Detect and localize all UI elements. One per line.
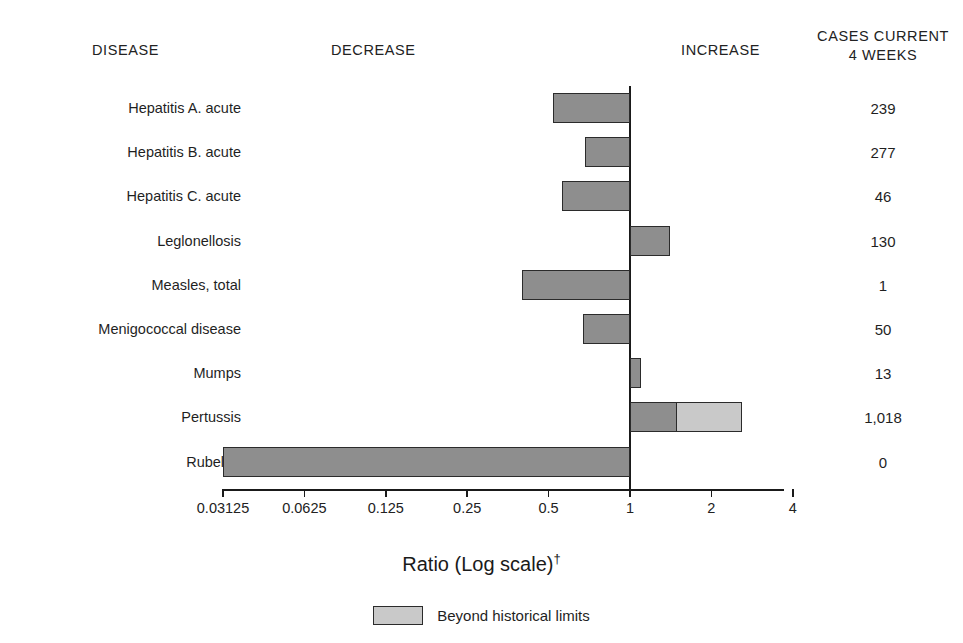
- bar-increase: [630, 226, 670, 256]
- row-label-hepatitis-c-acute: Hepatitis C. acute: [127, 188, 241, 204]
- x-axis-tick-0.0625: [304, 489, 306, 497]
- row-case-count: 0: [808, 453, 958, 470]
- x-axis-tick-label-0.03125: 0.03125: [197, 500, 249, 516]
- row-case-count: 239: [808, 100, 958, 117]
- x-axis-tick-label-0.25: 0.25: [453, 500, 481, 516]
- row-case-count: 1,018: [808, 409, 958, 426]
- plot-area: 0.031250.06250.1250.250.5124 Hepatitis A…: [0, 0, 963, 643]
- bar-decrease: [223, 447, 630, 477]
- bar-decrease: [562, 181, 630, 211]
- legend-swatch-beyond-historical-limits: [373, 606, 423, 625]
- bar-increase: [630, 402, 678, 432]
- legend: Beyond historical limits: [0, 606, 963, 625]
- x-axis-tick-2: [711, 489, 713, 497]
- row-label-pertussis: Pertussis: [181, 409, 241, 425]
- bar-increase: [630, 358, 641, 388]
- chart-row: Measles, total1: [0, 263, 963, 307]
- row-label-measles-total: Measles, total: [152, 277, 241, 293]
- x-axis-tick-0.25: [466, 489, 468, 497]
- chart-row: Mumps13: [0, 351, 963, 395]
- bar-decrease: [522, 270, 630, 300]
- x-axis-tick-label-0.0625: 0.0625: [282, 500, 326, 516]
- x-axis-tick-label-4: 4: [789, 500, 797, 516]
- row-case-count: 130: [808, 232, 958, 249]
- row-label-mumps: Mumps: [193, 365, 241, 381]
- x-axis-tick-1: [629, 489, 631, 497]
- chart-row: Menigococcal disease50: [0, 307, 963, 351]
- x-axis-tick-label-0.5: 0.5: [539, 500, 559, 516]
- chart-row: Hepatitis A. acute239: [0, 86, 963, 130]
- chart-row: Leglonellosis130: [0, 219, 963, 263]
- row-label-hepatitis-b-acute: Hepatitis B. acute: [127, 144, 241, 160]
- x-axis-tick-label-1: 1: [626, 500, 634, 516]
- row-case-count: 46: [808, 188, 958, 205]
- legend-label-beyond-historical-limits: Beyond historical limits: [437, 607, 590, 624]
- disease-ratio-chart: DISEASE DECREASE INCREASE CASES CURRENT …: [0, 0, 963, 643]
- x-axis-tick-4: [792, 489, 794, 497]
- bar-decrease: [553, 93, 630, 123]
- row-case-count: 1: [808, 276, 958, 293]
- x-axis-tick-0.5: [548, 489, 550, 497]
- row-case-count: 13: [808, 365, 958, 382]
- x-axis-tick-label-2: 2: [707, 500, 715, 516]
- row-label-leglonellosis: Leglonellosis: [157, 233, 241, 249]
- x-axis-line: [223, 489, 784, 491]
- chart-row: Hepatitis B. acute277: [0, 130, 963, 174]
- row-case-count: 50: [808, 321, 958, 338]
- x-axis-title-dagger: †: [553, 551, 560, 566]
- bar-decrease: [585, 137, 630, 167]
- row-label-menigococcal-disease: Menigococcal disease: [98, 321, 241, 337]
- bar-beyond-historical-limits: [676, 402, 742, 432]
- x-axis-tick-label-0.125: 0.125: [368, 500, 404, 516]
- x-axis-title: Ratio (Log scale)†: [0, 551, 963, 576]
- row-case-count: 277: [808, 144, 958, 161]
- chart-row: Hepatitis C. acute46: [0, 174, 963, 218]
- x-axis-tick-0.03125: [222, 489, 224, 497]
- row-label-hepatitis-a-acute: Hepatitis A. acute: [128, 100, 241, 116]
- chart-row: Pertussis1,018: [0, 395, 963, 439]
- x-axis-tick-0.125: [385, 489, 387, 497]
- x-axis-title-text: Ratio (Log scale): [402, 553, 553, 575]
- bar-decrease: [583, 314, 630, 344]
- chart-row: Rubella*0: [0, 440, 963, 484]
